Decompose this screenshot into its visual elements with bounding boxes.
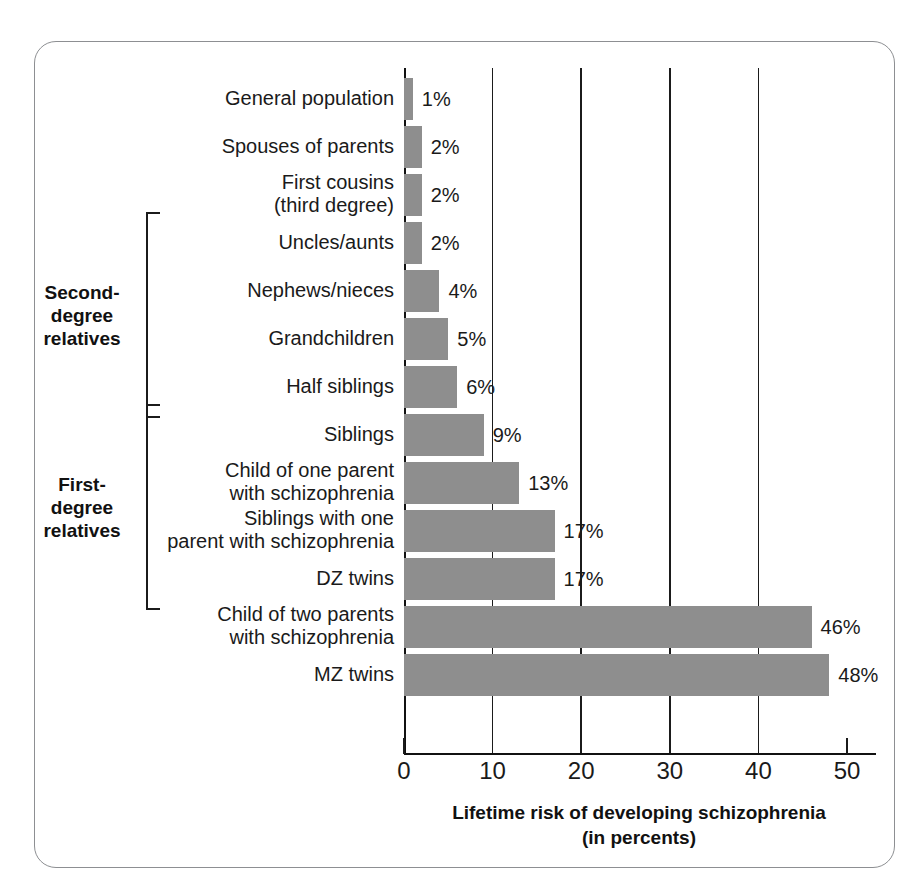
gridline-40: [758, 68, 760, 754]
x-axis-title: Lifetime risk of developing schizophreni…: [404, 800, 874, 850]
group-bracket: [146, 212, 160, 418]
x-tick-label-40: 40: [728, 757, 788, 785]
bar: [404, 318, 448, 360]
bar-value-label: 17%: [564, 510, 604, 552]
bar-value-label: 6%: [466, 366, 495, 408]
x-tick-0: [403, 738, 405, 754]
bar-value-label: 13%: [528, 462, 568, 504]
bar: [404, 558, 555, 600]
chart-page: 1%General population2%Spouses of parents…: [0, 0, 921, 882]
gridline-20: [580, 68, 582, 754]
category-label: First cousins (third degree): [14, 171, 394, 217]
bar: [404, 366, 457, 408]
bar-value-label: 17%: [564, 558, 604, 600]
bar-value-label: 4%: [448, 270, 477, 312]
plot-area: 1%General population2%Spouses of parents…: [0, 0, 921, 882]
group-bracket: [146, 404, 160, 610]
bar-value-label: 46%: [821, 606, 861, 648]
category-label: MZ twins: [14, 663, 394, 686]
bar: [404, 654, 829, 696]
bar-value-label: 5%: [457, 318, 486, 360]
bar: [404, 174, 422, 216]
bar: [404, 126, 422, 168]
bar: [404, 222, 422, 264]
category-label: Child of two parents with schizophrenia: [14, 603, 394, 649]
bar-value-label: 48%: [838, 654, 878, 696]
bar: [404, 270, 439, 312]
bar: [404, 414, 484, 456]
category-label: General population: [14, 87, 394, 110]
x-tick-label-30: 30: [640, 757, 700, 785]
gridline-30: [669, 68, 671, 754]
x-tick-label-0: 0: [374, 757, 434, 785]
bar: [404, 78, 413, 120]
x-tick-label-20: 20: [551, 757, 611, 785]
bar: [404, 462, 519, 504]
category-label: Spouses of parents: [14, 135, 394, 158]
gridline-10: [492, 68, 494, 754]
category-label: Siblings: [14, 423, 394, 446]
category-label: Uncles/aunts: [14, 231, 394, 254]
group-label: First- degree relatives: [24, 473, 140, 542]
bar-value-label: 9%: [493, 414, 522, 456]
bar: [404, 606, 812, 648]
category-label: Half siblings: [14, 375, 394, 398]
category-label: DZ twins: [14, 567, 394, 590]
bar-value-label: 2%: [431, 222, 460, 264]
bar-value-label: 2%: [431, 174, 460, 216]
x-tick-label-50: 50: [817, 757, 877, 785]
x-axis-line: [404, 753, 876, 755]
y-axis-line: [404, 68, 406, 754]
x-tick-50: [846, 738, 848, 754]
bar-value-label: 2%: [431, 126, 460, 168]
x-tick-label-10: 10: [463, 757, 523, 785]
bar-value-label: 1%: [422, 78, 451, 120]
group-label: Second- degree relatives: [24, 281, 140, 350]
bar: [404, 510, 555, 552]
